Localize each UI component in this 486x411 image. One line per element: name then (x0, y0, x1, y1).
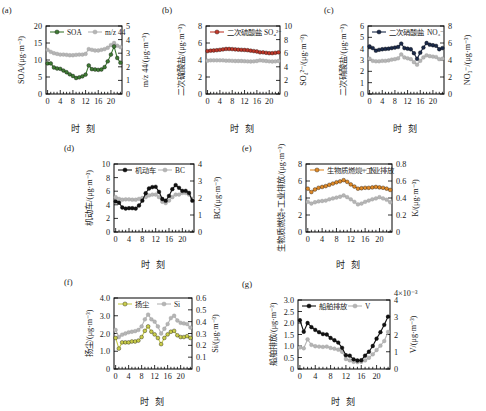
data-point (149, 317, 153, 321)
data-point (109, 53, 113, 57)
y-tick-label: 0 (290, 365, 294, 374)
data-point (159, 332, 163, 336)
data-point (117, 201, 121, 205)
y-tick-label: 20 (34, 22, 42, 31)
y-tick-label: 10 (34, 56, 42, 65)
data-point (379, 330, 383, 334)
y2-tick-label: 0 (284, 90, 288, 99)
data-point (336, 341, 340, 345)
legend-marker (123, 168, 127, 172)
data-point (136, 328, 140, 332)
y-tick-label: 6 (198, 39, 202, 48)
data-point (370, 185, 374, 189)
legend-label: BC (175, 166, 185, 175)
data-point (187, 191, 191, 195)
y2-tick-label: 0 (396, 228, 400, 237)
legend-marker (358, 168, 362, 172)
data-point (156, 336, 160, 340)
panel-g: (g)04812162000.51.01.52.02.53.0012344×10… (240, 274, 440, 411)
y2-tick-label: 2 (448, 73, 452, 82)
y-tick-label: 3.0 (100, 312, 110, 321)
x-tick-label: 20 (429, 97, 437, 106)
x-tick-label: 0 (114, 235, 118, 244)
data-point (367, 356, 371, 360)
y-tick-label: 0.5 (284, 354, 294, 363)
data-point (412, 60, 416, 64)
plot-b: (b)048121620024680246810二次硫酸盐/(μg·m⁻³)SO… (160, 0, 322, 138)
y2-tick-label: 4 (126, 36, 130, 45)
y-tick-label: 0 (360, 90, 364, 99)
x-tick-label: 16 (361, 235, 369, 244)
data-point (313, 328, 317, 332)
data-point (399, 53, 403, 57)
y2-tick-label: 3 (198, 177, 202, 186)
y2-tick-label: 0.5 (196, 306, 206, 315)
data-point (359, 358, 363, 362)
legend-marker (353, 304, 357, 308)
data-point (356, 359, 360, 363)
data-point (381, 197, 385, 201)
y-tick-label: 4 (106, 201, 110, 210)
data-point (170, 187, 174, 191)
y-tick-label: 1.0 (284, 342, 294, 351)
legend-marker (162, 302, 166, 306)
data-point (375, 348, 379, 352)
y2-tick-label: 0.2 (396, 211, 406, 220)
y2-tick-label: 0.3 (196, 330, 206, 339)
x-tick-label: 0 (205, 97, 209, 106)
plot-c: (c)048121620012345602468二次硝酸盐/(μg·m⁻³)NO… (322, 0, 486, 138)
data-point (306, 200, 310, 204)
y2-tick-label: 8 (284, 36, 288, 45)
x-axis-title: 时 刻 (140, 396, 166, 407)
y2-tick-label: 0 (394, 365, 398, 374)
y2-tick-label: 1 (394, 348, 398, 357)
data-point (415, 63, 419, 67)
data-point (385, 187, 389, 191)
x-tick-label: 4 (380, 97, 384, 106)
data-point (321, 332, 325, 336)
y2-tick-label: 0 (198, 228, 202, 237)
y-tick-label: 2.5 (284, 308, 294, 317)
y-axis-label: 生物质燃烧+工业排放/(μg·m⁻³) (276, 144, 286, 253)
data-point (342, 178, 346, 182)
data-point (114, 328, 118, 332)
legend-marker (163, 168, 167, 172)
data-point (329, 336, 333, 340)
panel-c: (c)048121620012345602468二次硝酸盐/(μg·m⁻³)NO… (322, 0, 486, 138)
data-point (310, 343, 314, 347)
y-tick-label: 2.0 (100, 330, 110, 339)
y-tick-label: 5 (38, 73, 42, 82)
legend-label: SO₄²⁻ (264, 28, 282, 37)
y-tick-label: 6 (106, 187, 110, 196)
data-point (184, 189, 188, 193)
panel-letter: (d) (64, 143, 74, 153)
y-tick-label: 1.0 (100, 347, 110, 356)
data-point (310, 325, 314, 329)
data-point (363, 358, 367, 362)
data-point (441, 46, 445, 50)
y2-exponent: 4×10⁻³ (394, 289, 418, 298)
y2-tick-label: 0.4 (196, 318, 206, 327)
x-tick-label: 4 (218, 97, 222, 106)
y-tick-label: 0 (106, 228, 110, 237)
y2-tick-label: 2 (198, 194, 202, 203)
data-point (185, 322, 189, 326)
x-tick-label: 16 (164, 372, 172, 381)
data-point (412, 51, 416, 55)
data-point (277, 59, 281, 63)
data-point (363, 186, 367, 190)
y2-axis-label: NO₃⁻/(μg·m⁻³) (463, 35, 472, 86)
data-point (136, 339, 140, 343)
legend-label: 机动车 (135, 166, 156, 175)
y-tick-label: 0 (106, 365, 110, 374)
data-point (327, 197, 331, 201)
data-point (115, 56, 119, 60)
data-point (317, 345, 321, 349)
data-point (317, 186, 321, 190)
plot-e: (e)0481216200246800.20.40.60.8生物质燃烧+工业排放… (240, 138, 440, 274)
y-tick-label: 3 (360, 56, 364, 65)
data-point (331, 197, 335, 201)
data-point (338, 195, 342, 199)
data-point (177, 186, 181, 190)
data-point (119, 61, 123, 65)
